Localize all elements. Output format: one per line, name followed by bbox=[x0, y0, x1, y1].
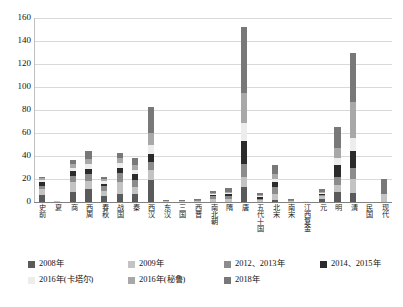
bar-column bbox=[241, 18, 247, 202]
legend-item[interactable]: 2016年(卡塔尔) bbox=[28, 275, 93, 285]
y-axis-line bbox=[34, 18, 35, 202]
bar-segment bbox=[148, 145, 154, 154]
y-axis-tick-label: 60 bbox=[1, 128, 31, 137]
bar-segment bbox=[241, 187, 247, 202]
legend-swatch-icon bbox=[128, 277, 135, 284]
bar-segment bbox=[241, 27, 247, 93]
bar-stack bbox=[319, 189, 325, 202]
legend-item[interactable]: 2008年 bbox=[28, 259, 64, 269]
y-axis-tick-label: 80 bbox=[1, 105, 31, 114]
bar-segment bbox=[350, 138, 356, 152]
bar-column bbox=[319, 18, 325, 202]
bar-stack bbox=[101, 177, 107, 202]
bar-stack bbox=[85, 151, 91, 202]
x-axis-tick-label: 南宋 bbox=[287, 204, 295, 218]
legend-swatch-icon bbox=[128, 261, 135, 268]
bar-column bbox=[225, 18, 231, 202]
bar-segment bbox=[272, 165, 278, 174]
y-axis-tick-label: 0 bbox=[1, 197, 31, 206]
bar-column bbox=[117, 18, 123, 202]
bar-segment bbox=[241, 123, 247, 141]
bar-stack bbox=[225, 188, 231, 202]
legend-label: 2016年(卡塔尔) bbox=[39, 275, 93, 285]
legend-label: 2008年 bbox=[39, 259, 64, 269]
bar-column bbox=[70, 18, 76, 202]
legend-swatch-icon bbox=[224, 277, 231, 284]
x-axis-labels: 史前夏商西周春秋战国秦西汉东汉三国西晋南北朝隋唐五代十国北宋南宋江西复金元明清民… bbox=[34, 204, 392, 256]
x-axis-tick-label: 北宋 bbox=[271, 204, 279, 218]
legend-item[interactable]: 2012、2013年 bbox=[224, 259, 285, 269]
x-axis-tick-label: 江西复金 bbox=[302, 204, 310, 232]
y-axis-tick-label: 140 bbox=[1, 36, 31, 45]
x-axis-tick-label: 南北朝 bbox=[209, 204, 217, 225]
plot-area bbox=[34, 18, 392, 202]
bar-column bbox=[334, 18, 340, 202]
legend-item[interactable]: 2009年 bbox=[128, 259, 164, 269]
bar-segment bbox=[334, 148, 340, 158]
bar-segment bbox=[148, 107, 154, 133]
bar-stack bbox=[350, 53, 356, 202]
bar-column bbox=[366, 18, 372, 202]
bar-column bbox=[85, 18, 91, 202]
bar-segment bbox=[117, 173, 123, 182]
legend-swatch-icon bbox=[224, 261, 231, 268]
bar-column bbox=[101, 18, 107, 202]
x-axis-tick-label: 西汉 bbox=[147, 204, 155, 218]
bar-segment bbox=[148, 133, 154, 145]
bar-column bbox=[381, 18, 387, 202]
bar-column bbox=[288, 18, 294, 202]
bar-segment bbox=[241, 164, 247, 177]
x-axis-tick-label: 西晋 bbox=[193, 204, 201, 218]
legend-item[interactable]: 2016年(秘鲁) bbox=[128, 275, 185, 285]
bar-stack bbox=[132, 158, 138, 202]
bar-segment bbox=[70, 192, 76, 202]
bar-column bbox=[257, 18, 263, 202]
x-axis-tick-label: 元 bbox=[318, 204, 326, 211]
bar-segment bbox=[350, 179, 356, 193]
bar-segment bbox=[381, 194, 387, 202]
x-axis-tick-label: 商 bbox=[69, 204, 77, 211]
legend-swatch-icon bbox=[320, 261, 327, 268]
stacked-bar-chart: 020406080100120140160 史前夏商西周春秋战国秦西汉东汉三国西… bbox=[0, 0, 403, 307]
bar-segment bbox=[39, 195, 45, 202]
bar-segment bbox=[241, 177, 247, 187]
bar-segment bbox=[85, 174, 91, 181]
bar-stack bbox=[148, 107, 154, 202]
bar-segment bbox=[350, 193, 356, 202]
x-axis-tick-label: 明 bbox=[334, 204, 342, 211]
x-axis-tick-label: 五代十国 bbox=[256, 204, 264, 232]
bar-stack bbox=[272, 165, 278, 202]
bar-segment bbox=[334, 185, 340, 192]
bar-column bbox=[163, 18, 169, 202]
x-axis-tick-label: 民国 bbox=[365, 204, 373, 218]
bar-segment bbox=[148, 180, 154, 202]
x-axis-tick-label: 唐 bbox=[240, 204, 248, 211]
bar-segment bbox=[117, 194, 123, 202]
legend-item[interactable]: 2018年 bbox=[224, 275, 260, 285]
bar-column bbox=[148, 18, 154, 202]
bar-segment bbox=[241, 93, 247, 123]
legend-label: 2016年(秘鲁) bbox=[139, 275, 185, 285]
bar-segment bbox=[334, 165, 340, 177]
legend-swatch-icon bbox=[28, 261, 35, 268]
bar-column bbox=[272, 18, 278, 202]
x-axis-tick-label: 秦 bbox=[131, 204, 139, 211]
bar-stack bbox=[117, 153, 123, 202]
bar-segment bbox=[334, 177, 340, 185]
bar-stack bbox=[241, 27, 247, 202]
bar-segment bbox=[334, 192, 340, 202]
x-axis-tick-label: 史前 bbox=[38, 204, 46, 218]
bar-column bbox=[210, 18, 216, 202]
bar-segment bbox=[381, 179, 387, 194]
legend-item[interactable]: 2014、2015年 bbox=[320, 259, 381, 269]
x-axis-tick-label: 战国 bbox=[116, 204, 124, 218]
bar-column bbox=[54, 18, 60, 202]
bar-column bbox=[39, 18, 45, 202]
legend-label: 2009年 bbox=[139, 259, 164, 269]
legend-label: 2012、2013年 bbox=[235, 259, 285, 269]
bar-column bbox=[303, 18, 309, 202]
bar-segment bbox=[334, 158, 340, 165]
bar-segment bbox=[334, 127, 340, 148]
bar-segment bbox=[272, 187, 278, 194]
bar-column bbox=[179, 18, 185, 202]
